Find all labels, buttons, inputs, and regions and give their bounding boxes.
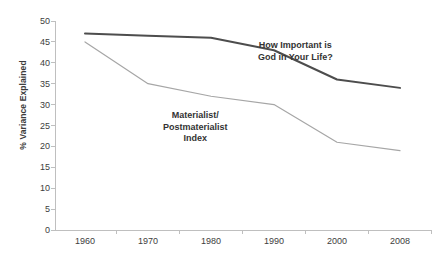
axis-ticks <box>51 21 432 234</box>
series-line-2 <box>85 42 400 151</box>
series-lines <box>85 34 400 151</box>
annotation-materialist-line1: Materialist/ <box>163 110 228 122</box>
annotation-god-line1: How Important is <box>258 40 333 52</box>
annotation-materialist-line2: Postmaterialist <box>163 122 228 134</box>
series-annotation-materialist: Materialist/ Postmaterialist Index <box>163 110 228 145</box>
series-annotation-god: How Important is God in Your Life? <box>258 40 333 63</box>
annotation-materialist-line3: Index <box>163 133 228 145</box>
annotation-god-line2: God in Your Life? <box>258 52 333 64</box>
series-line-1 <box>85 34 400 88</box>
line-chart: % Variance Explained 0510152025303540455… <box>0 0 442 262</box>
